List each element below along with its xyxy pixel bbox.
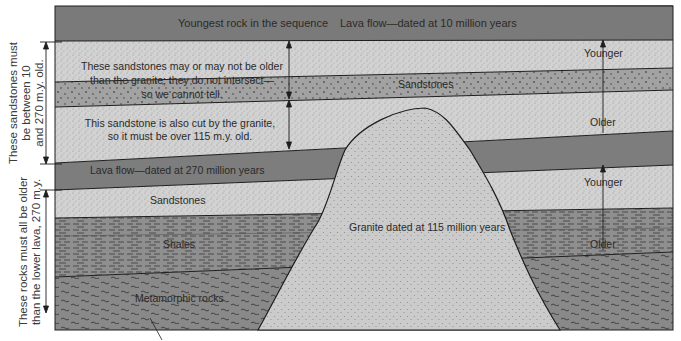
svg-text:and 270 m.y. old.: and 270 m.y. old. bbox=[33, 59, 45, 146]
older-lower-label: Older bbox=[590, 238, 616, 250]
svg-text:These sandstones must: These sandstones must bbox=[7, 41, 19, 164]
lava-top-label: Lava flow—dated at 10 million years bbox=[340, 17, 517, 29]
side-label-lower: These rocks must all be older than the l… bbox=[17, 177, 42, 327]
younger-upper-label: Younger bbox=[584, 47, 623, 59]
younger-lower-label: Younger bbox=[584, 176, 623, 188]
shales-label: Shales bbox=[163, 238, 195, 250]
sandstones-upper-label: Sandstones bbox=[398, 78, 453, 90]
cut-by-granite-line2: so it must be over 115 m.y. old. bbox=[108, 130, 252, 142]
older-upper-label: Older bbox=[590, 116, 616, 128]
sandstone-uncertain-line3: so we cannot tell. bbox=[141, 88, 222, 100]
sandstones-lower-label: Sandstones bbox=[150, 194, 205, 206]
lava-mid-label: Lava flow—dated at 270 million years bbox=[90, 164, 265, 176]
side-label-upper: These sandstones must be between 10 and … bbox=[7, 41, 45, 164]
youngest-rock-label: Youngest rock in the sequence bbox=[178, 17, 328, 29]
sandstone-uncertain-line2: than the granite; they do not intersect— bbox=[90, 74, 274, 86]
sandstone-uncertain-line1: These sandstones may or may not be older bbox=[81, 60, 283, 72]
granite-label: Granite dated at 115 million years bbox=[349, 221, 505, 233]
svg-text:than the lower lava, 270 m.y.: than the lower lava, 270 m.y. bbox=[30, 179, 42, 325]
svg-text:be between 10: be between 10 bbox=[20, 65, 32, 140]
cut-by-granite-line1: This sandstone is also cut by the granit… bbox=[85, 117, 275, 129]
svg-text:These rocks must all be older: These rocks must all be older bbox=[17, 177, 29, 327]
metamorphic-label: Metamorphic rocks bbox=[135, 292, 224, 304]
geologic-cross-section: Youngest rock in the sequence Lava flow—… bbox=[0, 0, 681, 341]
